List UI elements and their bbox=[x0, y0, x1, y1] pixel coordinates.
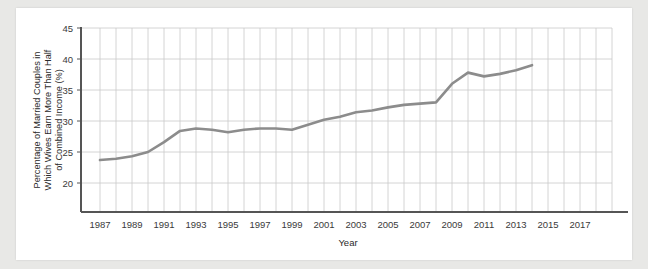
y-axis-title-line-2: Which Wives Earn More Than Half bbox=[43, 49, 53, 190]
x-tick-label: 2003 bbox=[345, 219, 366, 230]
x-tick-label: 1995 bbox=[217, 219, 238, 230]
x-tick-label: 2011 bbox=[474, 219, 494, 230]
y-tick-label: 30 bbox=[62, 116, 73, 127]
x-tick-labels: 1987 1989 1991 1993 1995 1997 1999 2001 … bbox=[89, 219, 590, 230]
x-tick-label: 2005 bbox=[377, 219, 398, 230]
y-tick-label: 35 bbox=[62, 85, 73, 96]
x-tick-label: 2001 bbox=[313, 219, 334, 230]
x-tick-label: 1993 bbox=[185, 219, 206, 230]
line-chart: 45 40 35 30 25 20 Percentage of Married … bbox=[0, 0, 648, 269]
y-tick-label: 40 bbox=[62, 54, 73, 65]
page-root: 45 40 35 30 25 20 Percentage of Married … bbox=[0, 0, 648, 269]
y-tick-label: 45 bbox=[62, 23, 73, 34]
data-series-line bbox=[100, 65, 532, 160]
y-tick-labels: 45 40 35 30 25 20 bbox=[62, 23, 73, 189]
x-tick-label: 1997 bbox=[249, 219, 270, 230]
x-tick-label: 1987 bbox=[89, 219, 110, 230]
x-tick-label: 2013 bbox=[505, 219, 526, 230]
x-tick-label: 2009 bbox=[441, 219, 462, 230]
x-tick-label: 2007 bbox=[409, 219, 430, 230]
x-tick-label: 1989 bbox=[121, 219, 142, 230]
y-axis-title-line-1: Percentage of Married Couples in bbox=[32, 52, 42, 189]
grid-vertical bbox=[100, 28, 612, 212]
x-tick-label: 1999 bbox=[281, 219, 302, 230]
y-axis-title-line-3: of Combined Income (%) bbox=[54, 69, 64, 171]
x-tick-label: 2017 bbox=[569, 219, 590, 230]
y-tick-label: 20 bbox=[62, 178, 73, 189]
x-tick-label: 1991 bbox=[153, 219, 174, 230]
y-tick-label: 25 bbox=[62, 147, 73, 158]
x-tick-label: 2015 bbox=[537, 219, 558, 230]
x-axis-title: Year bbox=[338, 237, 357, 248]
y-axis-title: Percentage of Married Couples in Which W… bbox=[32, 49, 64, 190]
